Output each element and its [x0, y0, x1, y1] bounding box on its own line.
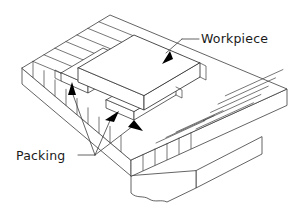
figure-canvas: Workpiece Packing: [0, 0, 303, 221]
packing-label: Packing: [16, 148, 65, 163]
workpiece-label: Workpiece: [201, 31, 268, 46]
